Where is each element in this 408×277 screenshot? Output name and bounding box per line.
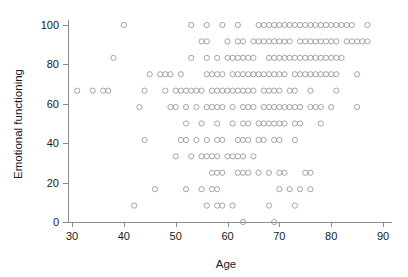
data-point bbox=[235, 22, 240, 27]
data-point bbox=[318, 72, 323, 77]
data-point bbox=[251, 154, 256, 159]
y-tick-label: 60 bbox=[47, 98, 59, 110]
tick-layer: 02040608010030405060708090 bbox=[41, 19, 389, 242]
data-point bbox=[183, 88, 188, 93]
data-point bbox=[303, 72, 308, 77]
data-point bbox=[266, 72, 271, 77]
data-point bbox=[297, 104, 302, 109]
data-point bbox=[329, 72, 334, 77]
data-point bbox=[215, 203, 220, 208]
data-point bbox=[230, 104, 235, 109]
data-point bbox=[137, 104, 142, 109]
data-point bbox=[297, 22, 302, 27]
data-point bbox=[365, 39, 370, 44]
data-point bbox=[183, 137, 188, 142]
data-point bbox=[313, 39, 318, 44]
data-point bbox=[308, 72, 313, 77]
data-point bbox=[318, 121, 323, 126]
data-point bbox=[297, 55, 302, 60]
data-point bbox=[204, 39, 209, 44]
data-point bbox=[272, 121, 277, 126]
data-point bbox=[199, 154, 204, 159]
data-point bbox=[266, 55, 271, 60]
data-point bbox=[261, 121, 266, 126]
data-point bbox=[173, 104, 178, 109]
data-point bbox=[282, 22, 287, 27]
data-point bbox=[287, 104, 292, 109]
data-point bbox=[189, 88, 194, 93]
data-point bbox=[194, 137, 199, 142]
x-tick-label: 80 bbox=[325, 230, 337, 242]
data-point bbox=[121, 22, 126, 27]
data-point bbox=[334, 39, 339, 44]
data-point bbox=[308, 170, 313, 175]
data-point bbox=[215, 154, 220, 159]
data-point bbox=[220, 22, 225, 27]
data-point bbox=[194, 88, 199, 93]
data-point bbox=[266, 88, 271, 93]
data-point bbox=[215, 104, 220, 109]
data-point bbox=[194, 104, 199, 109]
data-point bbox=[215, 187, 220, 192]
data-point bbox=[292, 104, 297, 109]
y-tick-label: 80 bbox=[47, 58, 59, 70]
data-point bbox=[287, 187, 292, 192]
data-point bbox=[282, 121, 287, 126]
data-point bbox=[235, 154, 240, 159]
data-point bbox=[215, 170, 220, 175]
data-point bbox=[235, 72, 240, 77]
scatter-plot-figure: 02040608010030405060708090 Age Emotional… bbox=[0, 0, 408, 277]
data-point bbox=[334, 72, 339, 77]
data-point bbox=[220, 88, 225, 93]
data-point bbox=[354, 72, 359, 77]
data-point bbox=[230, 121, 235, 126]
y-axis-title: Emotional functioning bbox=[12, 69, 24, 179]
data-point bbox=[329, 104, 334, 109]
data-point bbox=[106, 88, 111, 93]
data-point bbox=[339, 55, 344, 60]
x-tick-label: 70 bbox=[273, 230, 285, 242]
data-point bbox=[209, 187, 214, 192]
data-point bbox=[292, 137, 297, 142]
data-point bbox=[339, 22, 344, 27]
data-point bbox=[287, 22, 292, 27]
data-point bbox=[303, 55, 308, 60]
data-point bbox=[277, 137, 282, 142]
data-point bbox=[272, 55, 277, 60]
data-point bbox=[142, 137, 147, 142]
data-point bbox=[261, 88, 266, 93]
data-point bbox=[240, 72, 245, 77]
x-axis-title: Age bbox=[216, 258, 236, 270]
data-point bbox=[230, 72, 235, 77]
data-point bbox=[235, 88, 240, 93]
data-point bbox=[272, 72, 277, 77]
data-point bbox=[272, 39, 277, 44]
axis-layer bbox=[68, 20, 392, 223]
data-point bbox=[323, 55, 328, 60]
data-point bbox=[334, 22, 339, 27]
data-point bbox=[277, 55, 282, 60]
data-point bbox=[277, 121, 282, 126]
data-point bbox=[199, 121, 204, 126]
data-point bbox=[225, 55, 230, 60]
data-point bbox=[204, 137, 209, 142]
data-point bbox=[313, 72, 318, 77]
data-point bbox=[158, 72, 163, 77]
data-point bbox=[251, 88, 256, 93]
data-point bbox=[282, 55, 287, 60]
data-point bbox=[230, 203, 235, 208]
plot-canvas: 02040608010030405060708090 Age Emotional… bbox=[0, 0, 408, 277]
data-point bbox=[292, 88, 297, 93]
data-point bbox=[209, 104, 214, 109]
data-point bbox=[256, 39, 261, 44]
data-point bbox=[256, 137, 261, 142]
data-point bbox=[261, 72, 266, 77]
data-point bbox=[215, 55, 220, 60]
data-point bbox=[178, 72, 183, 77]
data-point bbox=[349, 39, 354, 44]
data-point bbox=[277, 187, 282, 192]
data-point bbox=[220, 203, 225, 208]
data-point bbox=[282, 104, 287, 109]
data-point bbox=[215, 121, 220, 126]
data-point bbox=[329, 39, 334, 44]
